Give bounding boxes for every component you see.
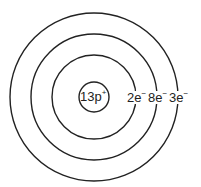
shell-2-count: 8e (148, 90, 162, 105)
shell-2-charge: − (162, 89, 167, 98)
shell-3-label: 3e− (168, 91, 189, 104)
shell-2-label: 8e− (147, 91, 168, 104)
shell-1-count: 2e (127, 90, 141, 105)
nucleus-text: 13p (80, 89, 102, 104)
shell-3-count: 3e (169, 90, 183, 105)
nucleus-charge: + (102, 88, 107, 97)
nucleus-label: 13p+ (80, 90, 106, 103)
shell-1-charge: − (141, 89, 146, 98)
shell-3-charge: − (183, 89, 188, 98)
shell-1-label: 2e− (126, 91, 147, 104)
